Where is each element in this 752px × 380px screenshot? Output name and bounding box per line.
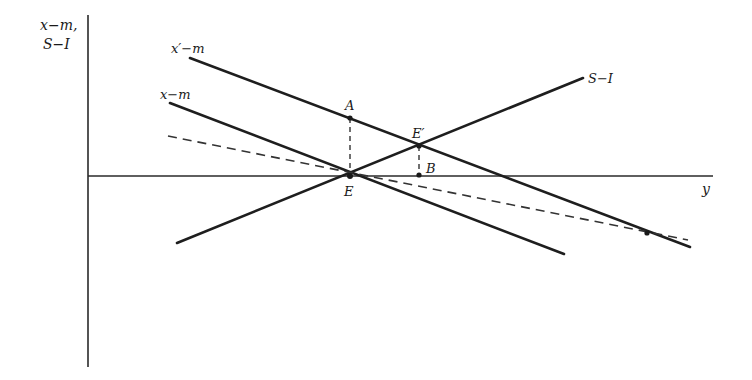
s-minus-i-label: S−I: [588, 71, 614, 86]
point-a: [347, 115, 352, 120]
x-prime-minus-m-label: x′−m: [171, 41, 205, 56]
point-e-label: E: [343, 184, 354, 199]
s-minus-i-line: [177, 78, 583, 243]
point-e-prime: [416, 143, 421, 148]
point-b: [416, 172, 421, 177]
y-axis-label-line1: x−m,: [40, 17, 77, 33]
point-e-prime-label: E′: [411, 126, 424, 141]
point-a-label: A: [344, 98, 354, 113]
x-prime-minus-m-line: [190, 58, 690, 247]
dashed-line: [168, 136, 688, 240]
x-minus-m-label: x−m: [160, 87, 191, 102]
point-e: [347, 173, 353, 179]
income-expenditure-diagram: x−m, S−I y x′−m x−m S−I A E E′ B: [0, 0, 752, 380]
x-axis-label: y: [701, 181, 711, 197]
point-far-intersection: [644, 230, 649, 235]
y-axis-label-line2: S−I: [43, 36, 70, 52]
point-b-label: B: [425, 161, 436, 176]
